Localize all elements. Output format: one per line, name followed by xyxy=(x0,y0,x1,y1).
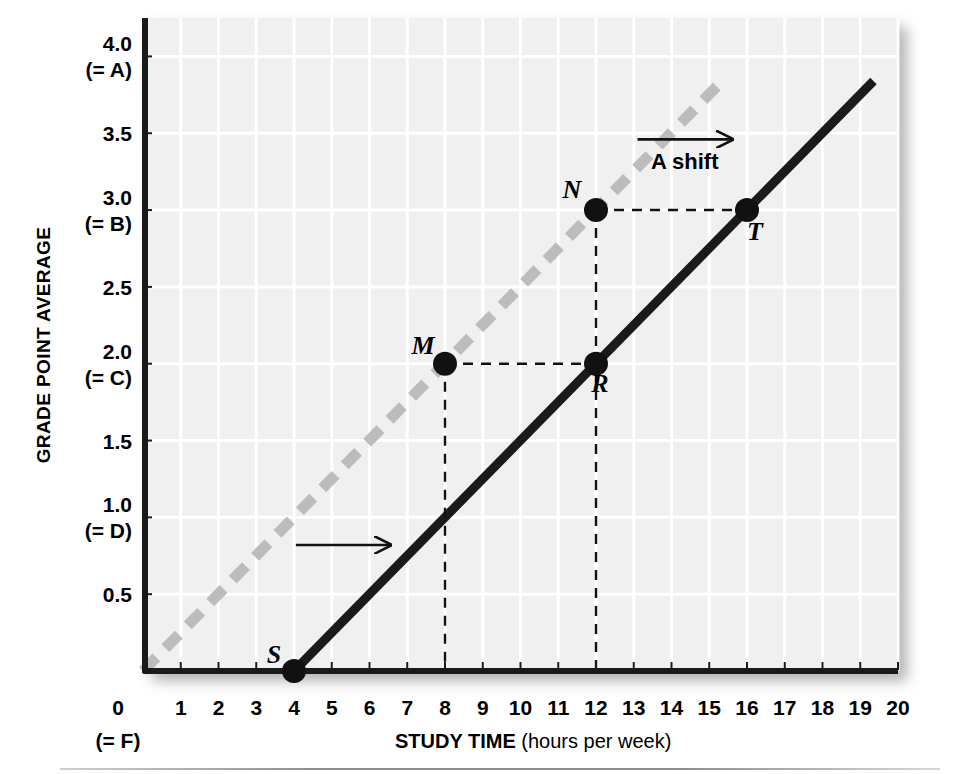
x-axis-origin-sublabel: (= F) xyxy=(96,729,141,752)
x-tick-label: 14 xyxy=(660,696,684,719)
y-tick-label: 3.0 xyxy=(103,186,132,209)
y-tick-label: 3.5 xyxy=(103,122,133,145)
y-tick-label: 0.5 xyxy=(103,583,133,606)
y-tick-sublabel: (= C) xyxy=(85,366,132,389)
x-axis-tick-labels: 01234567891011121314151617181920 xyxy=(112,696,910,719)
x-tick-label: 7 xyxy=(401,696,413,719)
x-tick-label: 9 xyxy=(477,696,489,719)
point-N-label: N xyxy=(562,175,583,204)
x-tick-label: 10 xyxy=(509,696,532,719)
x-tick-label: 20 xyxy=(886,696,909,719)
x-tick-label: 0 xyxy=(112,696,124,719)
shift-label: A shift xyxy=(651,149,719,174)
y-tick-label: 2.5 xyxy=(103,276,133,299)
x-tick-label: 5 xyxy=(326,696,338,719)
point-S-marker xyxy=(282,659,306,683)
point-R-label: R xyxy=(590,369,608,398)
gridlines xyxy=(143,18,898,671)
y-tick-label: 4.0 xyxy=(103,32,132,55)
x-tick-label: 2 xyxy=(213,696,225,719)
y-axis-title-group: GRADE POINT AVERAGE xyxy=(33,227,54,464)
x-tick-label: 4 xyxy=(288,696,300,719)
x-tick-label: 15 xyxy=(698,696,722,719)
figure-container: 01234567891011121314151617181920 0.51.0(… xyxy=(0,0,959,774)
y-tick-sublabel: (= D) xyxy=(85,519,132,542)
x-tick-label: 19 xyxy=(849,696,872,719)
grade-point-average-vs-study-time-chart: 01234567891011121314151617181920 0.51.0(… xyxy=(0,0,959,774)
y-tick-label: 1.5 xyxy=(103,430,133,453)
x-axis-title: STUDY TIME (hours per week) xyxy=(395,730,671,752)
x-tick-label: 13 xyxy=(622,696,645,719)
x-tick-label: 11 xyxy=(547,696,570,719)
point-M-marker xyxy=(433,352,457,376)
x-tick-label: 12 xyxy=(584,696,607,719)
y-tick-sublabel: (= A) xyxy=(86,58,132,81)
point-M-label: M xyxy=(410,331,435,360)
x-tick-label: 16 xyxy=(735,696,758,719)
point-N-marker xyxy=(584,198,608,222)
y-tick-label: 1.0 xyxy=(103,493,132,516)
x-tick-label: 1 xyxy=(175,696,187,719)
point-S-label: S xyxy=(267,640,281,669)
x-axis-title-group: STUDY TIME (hours per week) xyxy=(395,730,671,752)
y-axis-tick-labels: 0.51.0(= D)1.52.0(= C)2.53.0(= B)3.54.0(… xyxy=(85,32,133,606)
x-tick-label: 8 xyxy=(439,696,451,719)
x-tick-label: 18 xyxy=(811,696,835,719)
footer-divider xyxy=(60,768,940,770)
x-tick-label: 3 xyxy=(250,696,262,719)
x-axis-origin-sublabel-group: (= F) xyxy=(96,729,141,752)
y-axis-title: GRADE POINT AVERAGE xyxy=(33,227,54,464)
x-tick-label: 17 xyxy=(773,696,796,719)
point-T-label: T xyxy=(747,217,764,246)
y-tick-label: 2.0 xyxy=(103,340,132,363)
x-tick-label: 6 xyxy=(364,696,376,719)
y-tick-sublabel: (= B) xyxy=(85,212,132,235)
